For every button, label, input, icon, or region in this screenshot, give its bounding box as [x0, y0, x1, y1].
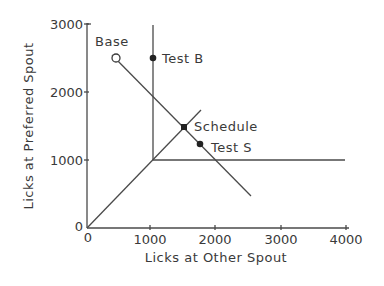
x-tick-label-4000: 4000 — [329, 232, 362, 247]
chart: 3000 2000 1000 0 0 1000 2000 3000 4000 L… — [0, 0, 384, 286]
y-tick-label-1000: 1000 — [50, 153, 83, 168]
x-axis-label: Licks at Other Spout — [145, 250, 287, 265]
x-tick-label-1000: 1000 — [133, 232, 166, 247]
y-tick-labels: 3000 2000 1000 0 — [50, 17, 83, 234]
x-tick-labels: 0 1000 2000 3000 4000 — [84, 230, 363, 247]
base-label: Base — [95, 34, 129, 49]
annotations: Base Test B Schedule Test S — [95, 34, 258, 155]
y-tick-label-0: 0 — [75, 219, 83, 234]
x-tick-label-2000: 2000 — [198, 232, 231, 247]
test-s-point — [197, 141, 204, 148]
base-point — [112, 54, 120, 62]
test-s-label: Test S — [210, 140, 252, 155]
y-axis-label: Licks at Preferred Spout — [21, 42, 36, 209]
x-tick-label-0: 0 — [84, 230, 92, 245]
schedule-point — [181, 124, 187, 130]
test-b-point — [150, 55, 157, 62]
y-tick-label-2000: 2000 — [50, 85, 83, 100]
x-tick-label-3000: 3000 — [264, 232, 297, 247]
test-b-label: Test B — [161, 51, 204, 66]
y-tick-label-3000: 3000 — [50, 17, 83, 32]
schedule-label: Schedule — [194, 119, 258, 134]
